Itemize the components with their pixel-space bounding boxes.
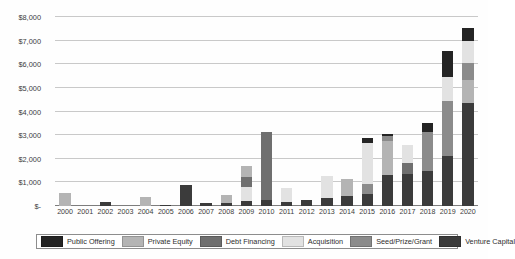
legend-label: Private Equity (148, 237, 193, 246)
stacked-bar[interactable] (281, 188, 292, 206)
legend-label: Venture Capital (465, 237, 515, 246)
bar-segment[interactable] (200, 203, 211, 206)
bar-segment[interactable] (341, 196, 352, 206)
bar-segment[interactable] (442, 77, 453, 101)
x-axis-tick-label: 2006 (176, 208, 196, 220)
bar-slot (55, 17, 75, 206)
stacked-bar[interactable] (462, 28, 473, 206)
legend-swatch (41, 236, 63, 247)
bar-segment[interactable] (362, 184, 373, 194)
y-axis-tick-label: $6,000 (0, 60, 41, 69)
bar-segment[interactable] (140, 197, 151, 206)
x-axis-tick-label: 2002 (95, 208, 115, 220)
legend-item[interactable]: Public Offering (41, 236, 115, 247)
bar-slot (337, 17, 357, 206)
bar-segment[interactable] (422, 132, 433, 171)
stacked-bar[interactable] (160, 205, 171, 206)
bar-segment[interactable] (301, 200, 312, 206)
stacked-bar[interactable] (402, 145, 413, 206)
bar-slot (357, 17, 377, 206)
y-axis-tick-label: $5,000 (0, 84, 41, 93)
stacked-bar[interactable] (301, 200, 312, 206)
bar-segment[interactable] (221, 203, 232, 206)
bar-segment[interactable] (462, 28, 473, 41)
bar-segment[interactable] (462, 80, 473, 104)
bar-slot (438, 17, 458, 206)
legend-item[interactable]: Debt Financing (200, 236, 275, 247)
x-axis-tick-label: 2007 (196, 208, 216, 220)
legend-label: Seed/Prize/Grant (376, 237, 432, 246)
x-axis-tick-label: 2010 (256, 208, 276, 220)
bar-slot (418, 17, 438, 206)
legend-swatch (282, 236, 304, 247)
y-axis-tick-label: $8,000 (0, 13, 41, 22)
bar-segment[interactable] (281, 188, 292, 201)
bar-segment[interactable] (462, 103, 473, 206)
bar-slot (176, 17, 196, 206)
x-axis-tick-label: 2012 (297, 208, 317, 220)
bar-segment[interactable] (442, 101, 453, 157)
stacked-bar[interactable] (241, 166, 252, 206)
x-axis-tick-label: 2001 (75, 208, 95, 220)
legend-item[interactable]: Seed/Prize/Grant (350, 236, 432, 247)
legend-item[interactable]: Private Equity (122, 236, 193, 247)
bar-segment[interactable] (321, 198, 332, 206)
bar-segment[interactable] (281, 202, 292, 206)
bar-slot (196, 17, 216, 206)
stacked-bar[interactable] (382, 134, 393, 206)
stacked-bar[interactable] (422, 123, 433, 206)
bar-segment[interactable] (462, 41, 473, 63)
bar-segment[interactable] (422, 123, 433, 132)
bar-segment[interactable] (160, 205, 171, 206)
stacked-bar[interactable] (221, 195, 232, 206)
y-axis-tick-label: $- (0, 202, 41, 211)
bar-segment[interactable] (241, 201, 252, 206)
bar-segment[interactable] (362, 194, 373, 206)
stacked-bar[interactable] (261, 132, 272, 206)
x-axis-tick-label: 2017 (397, 208, 417, 220)
legend-label: Debt Financing (226, 237, 275, 246)
x-axis-tick-label: 2008 (216, 208, 236, 220)
bar-slot (75, 17, 95, 206)
bar-segment[interactable] (261, 200, 272, 206)
stacked-bar[interactable] (180, 185, 191, 206)
bar-slot (95, 17, 115, 206)
bar-segment[interactable] (382, 175, 393, 206)
legend-swatch (350, 236, 372, 247)
stacked-bar[interactable] (59, 193, 70, 206)
bar-segment[interactable] (100, 202, 111, 206)
x-axis-tick-label: 2003 (115, 208, 135, 220)
legend-item[interactable]: Venture Capital (439, 236, 515, 247)
bar-segment[interactable] (382, 141, 393, 175)
x-axis-tick-label: 2005 (156, 208, 176, 220)
bar-segment[interactable] (442, 156, 453, 206)
bar-segment[interactable] (241, 166, 252, 177)
bar-segment[interactable] (462, 63, 473, 80)
stacked-bar[interactable] (341, 179, 352, 206)
y-axis-tick-label: $3,000 (0, 131, 41, 140)
bar-segment[interactable] (59, 193, 70, 206)
x-axis-tick-label: 2013 (317, 208, 337, 220)
x-axis-tick-label: 2015 (357, 208, 377, 220)
bar-segment[interactable] (442, 51, 453, 77)
bar-segment[interactable] (362, 143, 373, 184)
bar-segment[interactable] (261, 132, 272, 201)
bar-segment[interactable] (402, 163, 413, 174)
bar-segment[interactable] (221, 195, 232, 203)
stacked-bar[interactable] (362, 138, 373, 207)
stacked-bar[interactable] (100, 202, 111, 206)
bar-segment[interactable] (341, 179, 352, 196)
stacked-bar[interactable] (200, 203, 211, 206)
stacked-bar[interactable] (442, 51, 453, 206)
bar-segment[interactable] (241, 187, 252, 201)
bar-segment[interactable] (402, 145, 413, 163)
legend-item[interactable]: Acquisition (282, 236, 343, 247)
bar-segment[interactable] (402, 174, 413, 206)
bar-slot (136, 17, 156, 206)
bar-segment[interactable] (241, 177, 252, 187)
bar-segment[interactable] (422, 171, 433, 206)
bar-segment[interactable] (180, 185, 191, 206)
stacked-bar[interactable] (140, 197, 151, 206)
stacked-bar[interactable] (321, 176, 332, 206)
bar-segment[interactable] (321, 176, 332, 198)
